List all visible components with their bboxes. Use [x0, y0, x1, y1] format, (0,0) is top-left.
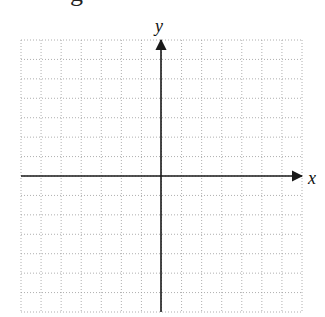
coordinate-plane: x y: [0, 0, 325, 317]
y-axis-label: y: [153, 16, 163, 36]
x-axis-label: x: [307, 168, 316, 188]
